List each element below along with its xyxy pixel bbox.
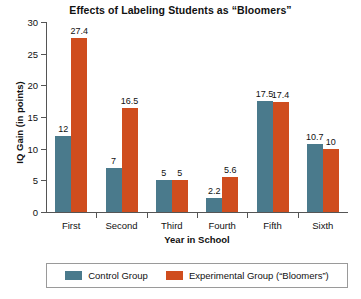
bar-value-label: 5.6 <box>224 165 237 175</box>
bar <box>206 198 222 212</box>
y-axis-title: IQ Gain (in points) <box>14 48 25 198</box>
bar <box>106 168 122 212</box>
y-axis-tick <box>41 212 46 213</box>
bar-value-label: 27.4 <box>70 26 88 36</box>
bar-value-label: 10 <box>326 137 336 147</box>
x-axis-category-label: Second <box>105 220 137 231</box>
bar-value-label: 5 <box>161 168 166 178</box>
bar-value-label: 16.5 <box>121 96 139 106</box>
bar <box>172 180 188 212</box>
x-axis-category-label: Third <box>161 220 183 231</box>
x-axis-category-label: Fourth <box>208 220 235 231</box>
x-axis-tick <box>197 213 198 218</box>
plot-area: 1227.4716.5552.25.617.517.410.710 <box>46 22 348 212</box>
x-axis-title: Year in School <box>46 234 348 245</box>
x-axis-tick <box>298 213 299 218</box>
x-axis-tick <box>147 213 148 218</box>
legend-swatch <box>65 271 82 280</box>
y-axis-tick-label: 30 <box>16 17 38 28</box>
legend-entry: Control Group <box>65 270 148 281</box>
legend-label: Experimental Group (“Bloomers”) <box>189 270 329 281</box>
bar <box>323 149 339 212</box>
bar-value-label: 17.4 <box>272 90 290 100</box>
x-axis-category-label: Sixth <box>312 220 333 231</box>
bar-value-label: 2.2 <box>208 186 221 196</box>
y-axis-tick-label: 0 <box>16 207 38 218</box>
bar-value-label: 12 <box>58 124 68 134</box>
bar-value-label: 7 <box>111 156 116 166</box>
chart-legend: Control GroupExperimental Group (“Bloome… <box>46 263 348 288</box>
bar <box>257 101 273 212</box>
bar <box>222 177 238 212</box>
bar <box>307 144 323 212</box>
bar-value-label: 17.5 <box>256 89 274 99</box>
legend-swatch <box>166 271 183 280</box>
legend-label: Control Group <box>88 270 148 281</box>
x-axis-tick <box>247 213 248 218</box>
bar-value-label: 10.7 <box>306 132 324 142</box>
bar <box>122 108 138 213</box>
x-axis-category-label: First <box>62 220 80 231</box>
bar <box>156 180 172 212</box>
chart-title: Effects of Labeling Students as “Bloomer… <box>0 4 361 16</box>
x-axis-tick <box>96 213 97 218</box>
bar-value-label: 5 <box>177 168 182 178</box>
bar <box>55 136 71 212</box>
legend-entry: Experimental Group (“Bloomers”) <box>166 270 329 281</box>
x-axis-category-label: Fifth <box>263 220 281 231</box>
bar <box>71 38 87 212</box>
bar <box>273 102 289 212</box>
chart-figure: Effects of Labeling Students as “Bloomer… <box>0 0 361 299</box>
